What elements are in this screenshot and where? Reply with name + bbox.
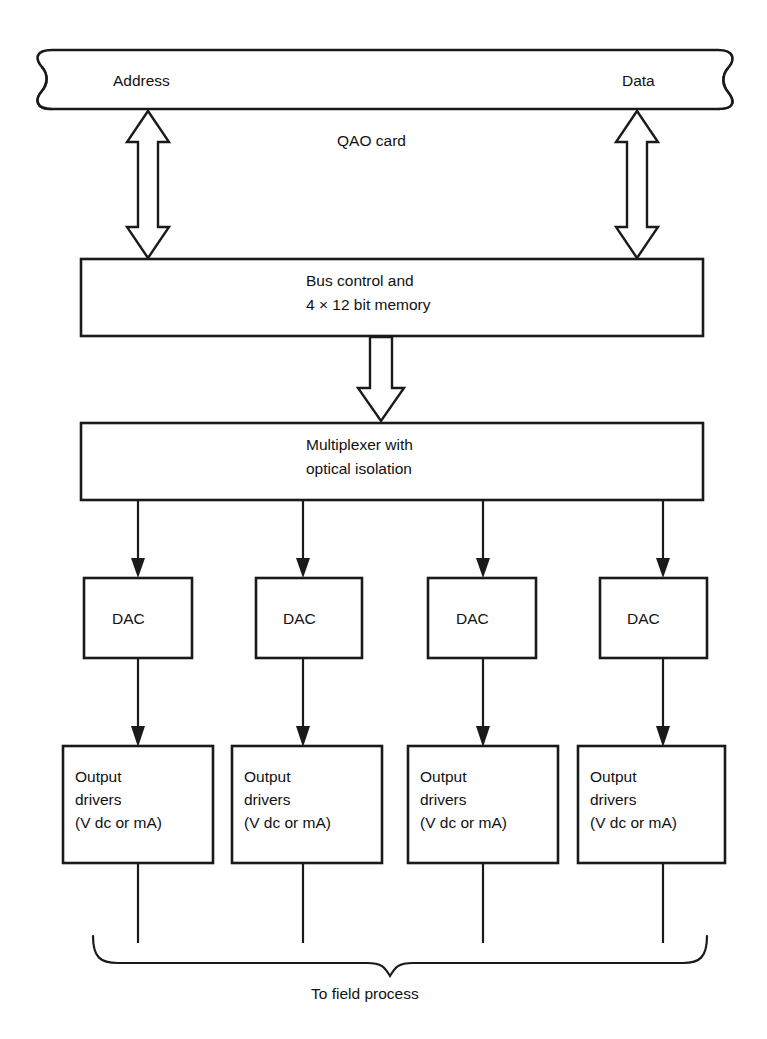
output-driver-block-3: Output drivers (V dc or mA)	[408, 746, 558, 863]
dac-to-driver-arrowhead-3	[476, 726, 490, 747]
dac-to-driver-connectors	[131, 658, 670, 747]
dac-label-4: DAC	[627, 610, 660, 627]
data-arrow-shape	[616, 111, 658, 258]
bus-control-line2: 4 × 12 bit memory	[306, 296, 431, 313]
output-driver-3-line3: (V dc or mA)	[420, 814, 507, 831]
field-output-lines	[138, 863, 663, 943]
output-driver-2-line2: drivers	[244, 791, 291, 808]
dac-block-4: DAC	[600, 578, 707, 658]
address-bidirectional-arrow	[127, 111, 169, 258]
output-driver-1-line3: (V dc or mA)	[75, 814, 162, 831]
output-driver-block-4: Output drivers (V dc or mA)	[578, 746, 725, 863]
dac-block-3: DAC	[428, 578, 536, 658]
output-driver-block-1: Output drivers (V dc or mA)	[63, 746, 213, 863]
bus-address-label: Address	[113, 72, 170, 89]
output-driver-3-line2: drivers	[420, 791, 467, 808]
field-process-group: To field process	[93, 936, 707, 1002]
dac-row: DAC DAC DAC DAC	[84, 578, 707, 658]
block-diagram-canvas: Address Data QAO card Bus control and 4 …	[0, 0, 767, 1039]
output-driver-1-line2: drivers	[75, 791, 122, 808]
mux-to-dac-arrowhead-3	[476, 558, 490, 578]
multiplexer-block: Multiplexer with optical isolation	[81, 423, 703, 500]
output-driver-1-line1: Output	[75, 768, 122, 785]
dac-to-driver-arrowhead-4	[656, 726, 670, 747]
dac-block-1: DAC	[84, 578, 192, 658]
mux-to-dac-arrowhead-4	[656, 558, 670, 578]
bus-to-mux-arrow-shape	[358, 337, 404, 421]
dac-label-1: DAC	[112, 610, 145, 627]
mux-to-dac-arrowhead-1	[131, 558, 145, 578]
bus-to-mux-arrow	[358, 337, 404, 421]
output-driver-4-line3: (V dc or mA)	[590, 814, 677, 831]
output-driver-block-2: Output drivers (V dc or mA)	[232, 746, 382, 863]
output-driver-3-line1: Output	[420, 768, 467, 785]
mux-to-dac-arrowhead-2	[296, 558, 310, 578]
output-driver-4-line1: Output	[590, 768, 637, 785]
output-driver-row: Output drivers (V dc or mA) Output drive…	[63, 746, 725, 863]
bus-data-label: Data	[622, 72, 655, 89]
data-bidirectional-arrow	[616, 111, 658, 258]
address-arrow-shape	[127, 111, 169, 258]
dac-to-driver-arrowhead-2	[296, 726, 310, 747]
dac-label-3: DAC	[456, 610, 489, 627]
mux-to-dac-connectors	[131, 500, 670, 578]
dac-label-2: DAC	[283, 610, 316, 627]
qao-card-block-diagram: Address Data QAO card Bus control and 4 …	[0, 0, 767, 1039]
dac-to-driver-arrowhead-1	[131, 726, 145, 747]
bus-control-line1: Bus control and	[306, 272, 414, 289]
multiplexer-line1: Multiplexer with	[306, 436, 413, 453]
output-driver-2-line1: Output	[244, 768, 291, 785]
field-process-label: To field process	[311, 985, 419, 1002]
system-bus: Address Data	[38, 50, 733, 109]
multiplexer-line2: optical isolation	[306, 460, 412, 477]
dac-block-2: DAC	[256, 578, 362, 658]
field-process-brace	[93, 936, 707, 976]
output-driver-2-line3: (V dc or mA)	[244, 814, 331, 831]
bus-control-block: Bus control and 4 × 12 bit memory	[81, 259, 703, 336]
qao-card-label: QAO card	[337, 132, 406, 149]
output-driver-4-line2: drivers	[590, 791, 637, 808]
